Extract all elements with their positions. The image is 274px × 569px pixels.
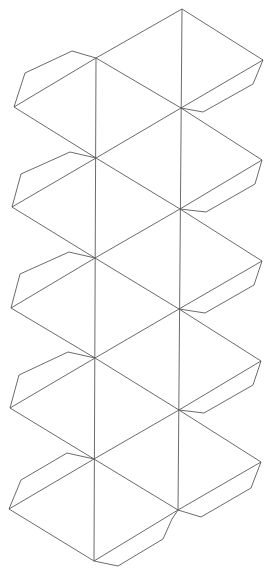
face-edge <box>14 58 96 107</box>
face-edge <box>94 459 178 510</box>
glue-tab-left <box>12 152 96 207</box>
glue-tab-right <box>178 462 261 517</box>
face-edge <box>182 9 263 60</box>
left-column-edge <box>94 58 96 561</box>
net-edges <box>9 9 263 561</box>
face-edge <box>11 308 95 358</box>
face-edge <box>95 358 179 410</box>
face-edge <box>180 209 262 261</box>
face-edge <box>12 207 95 258</box>
glue-tab-right <box>179 261 262 313</box>
face-edge <box>179 410 261 462</box>
face-edge <box>96 158 180 209</box>
right-column-edge <box>178 9 182 510</box>
glue-tabs <box>9 51 263 566</box>
face-edge <box>96 108 181 158</box>
face-edge <box>94 410 179 459</box>
glue-tab-right <box>181 60 263 112</box>
face-edge <box>181 60 263 108</box>
face-edge <box>12 158 96 207</box>
glue-tab-left <box>9 453 94 509</box>
face-edge <box>95 209 180 258</box>
face-edge <box>14 107 96 158</box>
face-edge <box>179 361 261 410</box>
face-edge <box>94 510 178 561</box>
face-edge <box>11 258 95 308</box>
glue-tab-left <box>11 252 95 308</box>
face-edge <box>179 309 261 361</box>
icosahedron-net-diagram <box>0 0 274 569</box>
face-edge <box>178 462 261 510</box>
face-edge <box>10 408 94 459</box>
glue-tab-left <box>14 51 96 107</box>
face-edge <box>180 160 262 209</box>
face-edge <box>95 258 179 309</box>
face-edge <box>10 358 95 408</box>
face-edge <box>181 108 262 160</box>
face-edge <box>95 309 179 358</box>
face-edge <box>9 509 94 561</box>
face-edge <box>179 261 262 309</box>
face-edge <box>96 58 181 108</box>
glue-tab-left <box>10 352 95 408</box>
glue-tab-bottom <box>94 510 178 566</box>
face-edge <box>9 459 94 509</box>
face-edge <box>96 9 182 58</box>
